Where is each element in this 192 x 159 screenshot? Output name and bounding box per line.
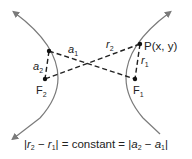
focus-f2 [43, 77, 47, 81]
right-branch-lower-arrow [143, 118, 160, 134]
label-a1: a1 [68, 43, 78, 57]
segment-a1 [49, 51, 135, 79]
focus-f1 [133, 77, 137, 81]
label-f1: F1 [133, 84, 144, 98]
left-branch-point [47, 49, 51, 53]
label-a2: a2 [33, 60, 43, 74]
left-branch-lower-arrow [14, 118, 40, 138]
label-r2: r2 [106, 38, 114, 52]
segment-r1 [135, 44, 140, 79]
point-p [138, 42, 142, 46]
segment-a2 [45, 51, 49, 79]
label-p: P(x, y) [144, 40, 177, 52]
label-r1: r1 [141, 54, 149, 68]
label-f2: F2 [36, 84, 47, 98]
focal-difference-formula: |r2 − r1| = constant = |a2 − a1| [0, 138, 192, 151]
hyperbola-diagram: a1 a2 r2 r1 P(x, y) F1 F2 [0, 0, 192, 140]
